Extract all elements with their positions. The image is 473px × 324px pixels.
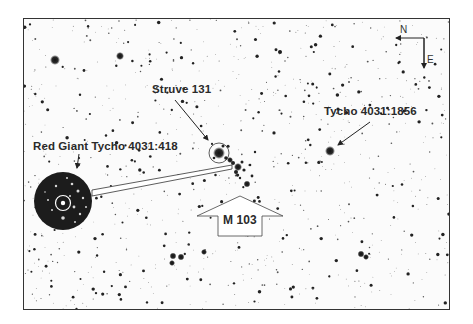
compass-north-label: N bbox=[400, 24, 407, 35]
lower-right-2 bbox=[363, 254, 369, 260]
bright-stars bbox=[50, 50, 369, 267]
red-giant-inset bbox=[34, 172, 92, 230]
cluster-star-1 bbox=[234, 163, 242, 171]
star-upper-left-2 bbox=[116, 52, 124, 60]
m103-label: M 103 bbox=[223, 213, 257, 227]
struve-131-arrow bbox=[175, 100, 208, 140]
lower-pair-1 bbox=[170, 253, 177, 260]
tycho-4031-1856 bbox=[325, 146, 335, 156]
red-giant-label: Red Giant Tycho 4031:418 bbox=[33, 140, 178, 152]
inset-connector-beam bbox=[92, 165, 232, 196]
compass bbox=[396, 38, 424, 68]
tycho-1856-label: Tycho 4031:1856 bbox=[324, 105, 417, 117]
compass-east-label: E bbox=[427, 54, 434, 65]
star-upper-left-1 bbox=[50, 55, 60, 65]
struve-131-label: Struve 131 bbox=[152, 83, 211, 95]
tycho-1856-arrow bbox=[338, 122, 370, 145]
lower-pair-2 bbox=[178, 254, 185, 261]
lower-mid bbox=[201, 249, 207, 255]
star-upper-mid bbox=[278, 50, 283, 55]
star-field bbox=[0, 0, 473, 324]
lower-pair-3 bbox=[169, 260, 175, 266]
cluster-star-2 bbox=[244, 181, 251, 188]
